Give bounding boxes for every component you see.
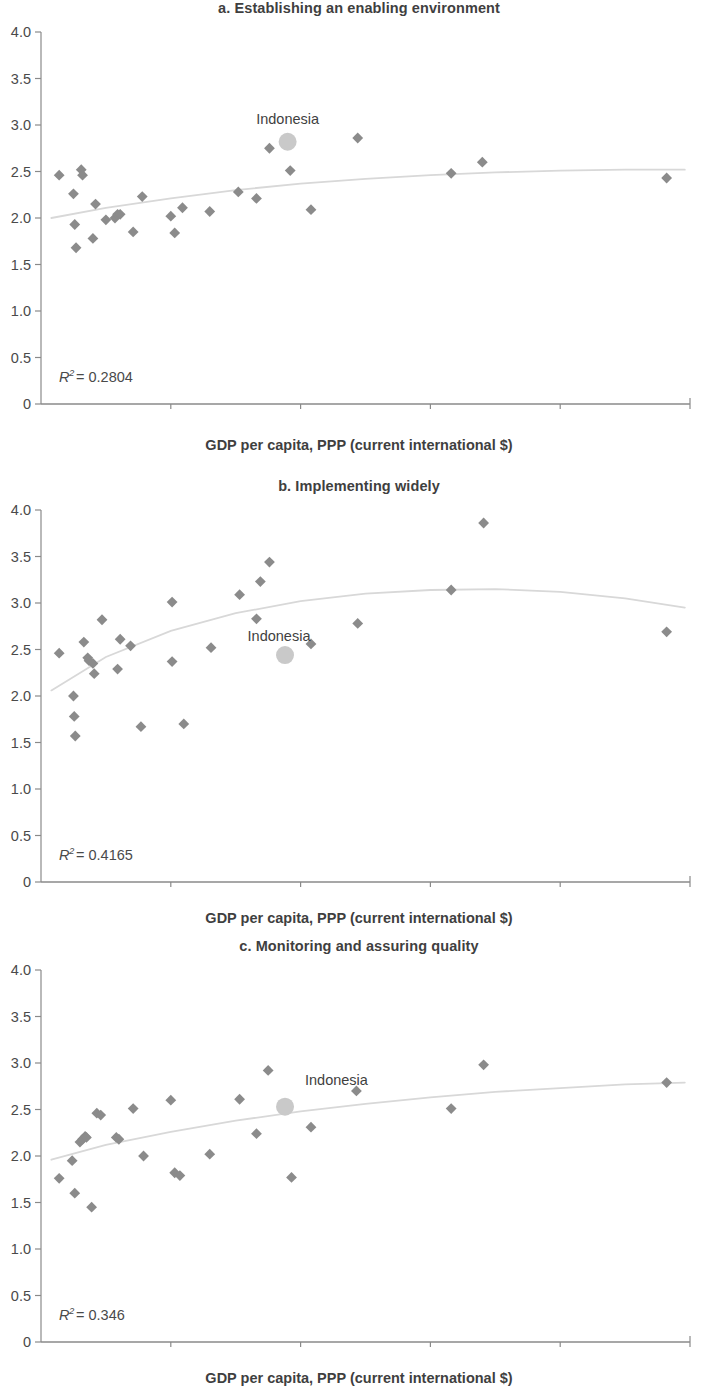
data-point-marker: [352, 618, 363, 629]
data-point-marker: [128, 1103, 139, 1114]
data-point-marker: [661, 173, 672, 184]
data-point-marker: [255, 576, 266, 587]
y-axis-tick-label: 2.0: [11, 210, 31, 226]
panel-a-plot: 00.51.01.52.02.53.03.54.005,00010,00015,…: [0, 24, 718, 414]
data-point-marker: [54, 648, 65, 659]
y-axis-tick-label: 1.0: [11, 781, 31, 797]
data-point-marker: [68, 188, 79, 199]
data-point-marker: [128, 227, 139, 238]
y-axis-tick-label: 1.5: [11, 1195, 31, 1211]
data-point-marker: [125, 640, 136, 651]
data-point-marker: [101, 214, 112, 225]
data-point-marker: [54, 170, 65, 181]
y-axis-tick-label: 0.5: [11, 828, 31, 844]
data-point-marker: [115, 634, 126, 645]
panel-a-x-axis-title: GDP per capita, PPP (current internation…: [0, 437, 718, 453]
y-axis-tick-label: 1.5: [11, 257, 31, 273]
y-axis-tick-label: 3.0: [11, 595, 31, 611]
r-squared-exponent: 2: [68, 367, 75, 378]
highlight-marker-indonesia: [276, 646, 294, 664]
highlight-marker-indonesia: [279, 133, 297, 151]
data-point-marker: [478, 1059, 489, 1070]
r-squared-exponent: 2: [68, 845, 75, 856]
panel-b-plot: 00.51.01.52.02.53.03.54.005,00010,00015,…: [0, 502, 718, 892]
y-axis-tick-label: 0.5: [11, 1288, 31, 1304]
data-point-marker: [69, 711, 80, 722]
y-axis-tick-label: 4.0: [11, 24, 31, 40]
data-point-marker: [178, 719, 189, 730]
y-axis-tick-label: 3.5: [11, 549, 31, 565]
data-point-marker: [70, 731, 81, 742]
r-squared-value: = 0.4165: [76, 847, 133, 863]
data-point-marker: [204, 1149, 215, 1160]
data-point-marker: [97, 614, 108, 625]
data-point-marker: [264, 143, 275, 154]
data-point-marker: [138, 1151, 149, 1162]
data-point-marker: [90, 199, 101, 210]
panel-b-x-axis-title: GDP per capita, PPP (current internation…: [0, 910, 718, 926]
panel-b: b. Implementing widely 00.51.01.52.02.53…: [0, 478, 718, 938]
data-point-marker: [446, 1103, 457, 1114]
panel-c-x-axis-title: GDP per capita, PPP (current internation…: [0, 1370, 718, 1386]
data-point-marker: [352, 133, 363, 144]
panel-b-title: b. Implementing widely: [0, 478, 718, 494]
highlight-label-indonesia: Indonesia: [256, 111, 320, 127]
y-axis-tick-label: 4.0: [11, 502, 31, 518]
y-axis-tick-label: 2.5: [11, 164, 31, 180]
data-point-marker: [233, 187, 244, 198]
data-point-marker: [285, 165, 296, 176]
trend-line: [51, 170, 684, 218]
panel-c-plot: 00.51.01.52.02.53.03.54.005,00010,00015,…: [0, 962, 718, 1352]
data-point-marker: [68, 691, 79, 702]
data-point-marker: [165, 1095, 176, 1106]
panel-a-title: a. Establishing an enabling environment: [0, 0, 718, 16]
r-squared-annotation: R2 = 0.4165: [59, 845, 133, 863]
r-squared-value: = 0.2804: [76, 369, 133, 385]
data-point-marker: [206, 642, 217, 653]
r-squared-annotation: R2 = 0.346: [59, 1305, 125, 1323]
panel-c: c. Monitoring and assuring quality 00.51…: [0, 938, 718, 1397]
data-point-marker: [67, 1155, 78, 1166]
y-axis-tick-label: 0: [23, 874, 31, 890]
y-axis-tick-label: 3.5: [11, 71, 31, 87]
r-squared-annotation: R2 = 0.2804: [59, 367, 133, 385]
highlight-marker-indonesia: [276, 1098, 294, 1116]
data-point-marker: [167, 656, 178, 667]
panel-b-chart-svg: 00.51.01.52.02.53.03.54.005,00010,00015,…: [0, 502, 718, 892]
panel-a: a. Establishing an enabling environment …: [0, 0, 718, 470]
y-axis-tick-label: 1.5: [11, 735, 31, 751]
highlight-label-indonesia: Indonesia: [305, 1072, 369, 1088]
r-squared-exponent: 2: [68, 1305, 75, 1316]
data-point-marker: [78, 637, 89, 648]
data-point-marker: [165, 211, 176, 222]
y-axis-tick-label: 0.5: [11, 350, 31, 366]
panel-c-title: c. Monitoring and assuring quality: [0, 938, 718, 954]
highlight-label-indonesia: Indonesia: [248, 628, 312, 644]
r-squared-value: = 0.346: [76, 1307, 125, 1323]
y-axis-tick-label: 3.5: [11, 1009, 31, 1025]
trend-line: [51, 589, 684, 690]
data-point-marker: [251, 1128, 262, 1139]
data-point-marker: [137, 191, 148, 202]
data-point-marker: [169, 227, 180, 238]
data-point-marker: [204, 206, 215, 217]
y-axis-tick-label: 2.0: [11, 1148, 31, 1164]
data-point-marker: [264, 557, 275, 568]
y-axis-tick-label: 2.0: [11, 688, 31, 704]
y-axis-tick-label: 4.0: [11, 962, 31, 978]
data-point-marker: [661, 626, 672, 637]
data-point-marker: [478, 518, 489, 529]
data-point-marker: [306, 1122, 317, 1133]
data-point-marker: [446, 168, 457, 179]
data-point-marker: [69, 1188, 80, 1199]
data-point-marker: [69, 219, 80, 230]
panel-c-chart-svg: 00.51.01.52.02.53.03.54.005,00010,00015,…: [0, 962, 718, 1352]
data-point-marker: [167, 597, 178, 608]
data-point-marker: [234, 589, 245, 600]
y-axis-tick-label: 1.0: [11, 1241, 31, 1257]
trend-line: [51, 1083, 684, 1160]
data-point-marker: [88, 233, 99, 244]
y-axis-tick-label: 2.5: [11, 642, 31, 658]
data-point-marker: [477, 157, 488, 168]
y-axis-tick-label: 2.5: [11, 1102, 31, 1118]
